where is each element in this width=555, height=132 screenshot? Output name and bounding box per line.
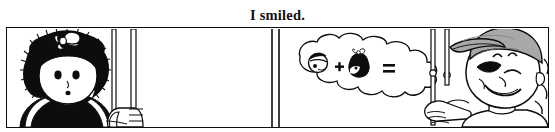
hanging-strap-ring-left	[430, 69, 436, 75]
girl-left-eye	[54, 70, 61, 79]
comic-artwork	[7, 29, 548, 127]
boy-ear	[536, 72, 544, 85]
girl-character	[20, 29, 113, 127]
comic-strip: I smiled.	[0, 0, 555, 132]
comic-art-area	[7, 29, 548, 127]
girl-right-eye	[72, 70, 79, 79]
boy-head-icon	[309, 53, 328, 72]
girl-gripping-hand	[106, 108, 143, 127]
caption-text: I smiled.	[250, 8, 305, 24]
caption-bar: I smiled.	[6, 4, 549, 28]
girl-mouth	[65, 90, 70, 94]
